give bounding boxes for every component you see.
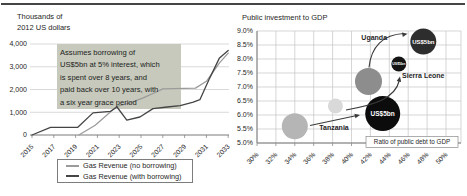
right-y-tick-label: 8.5% [237,41,253,48]
annotation-line: US$5bn at 5% interest, which [60,59,180,71]
right-x-tick-label: 36% [302,151,317,166]
right-x-tick-label: 48% [415,151,430,166]
right-x-tick-label: 32% [264,151,279,166]
left-y-tick-label: 0 [23,131,27,138]
right-y-tick-label: 6.0% [237,111,253,118]
bubble-chart: 30%32%34%36%38%40%42%44%46%48%50%9.0%8.5… [237,27,461,165]
right-y-tick-label: 5.0% [237,139,253,146]
left-y-tick-label: 3,000 [9,63,27,70]
left-x-tick-label: 2015 [19,143,35,159]
annotation-line: a six year grace period [60,97,180,109]
right-y-tick-label: 8.0% [237,55,253,62]
left-x-tick-label: 2023 [106,143,122,159]
left-x-tick-label: 2029 [172,143,188,159]
bubble-label-us5bn-sierra-leone: US$5bn [392,62,405,66]
right-x-tick-label: 42% [359,151,374,166]
right-x-tick-label: 40% [340,151,355,166]
annotation-line: paid back over 10 years, with [60,84,180,96]
bubble-label-us5bn-tanzania: US$5bn [371,110,395,118]
left-x-tick-label: 2033 [215,143,231,159]
right-y-tick-label: 7.5% [237,69,253,76]
bubble-label-us5bn-uganda: US$5bn [412,39,435,45]
right-x-tick-label: 30% [245,151,260,166]
arrow-uganda-to-us5bn-head [402,32,408,37]
left-x-tick-label: 2027 [150,143,166,159]
left-x-tick-label: 2025 [128,143,144,159]
arrow-tanzania-to-us5bn-head [354,113,360,119]
right-y-tick-label: 7.0% [237,83,253,90]
right-x-axis-label: Ratio of public debt to GDP [374,138,450,146]
right-y-tick-label: 6.5% [237,97,253,104]
left-y-tick-label: 1,000 [9,109,27,116]
right-x-tick-label: 34% [283,151,298,166]
left-x-tick-label: 2031 [193,143,209,159]
bubble-tanzania-current [282,113,308,139]
country-label-tanzania: Tanzania [319,124,349,131]
line-chart-legend: Gas Revenue (no borrowing) Gas Revenue (… [57,159,193,183]
bubble-uganda-current [355,68,382,95]
legend-row-with-borrowing: Gas Revenue (with borrowing) [66,172,192,183]
bubble-sierra-leone-current [328,99,343,114]
right-x-tick-label: 50% [434,151,449,166]
right-x-tick-label: 38% [321,151,336,166]
legend-label: Gas Revenue (no borrowing) [83,161,177,170]
annotation-line: is spent over 8 years, and [60,72,180,84]
legend-row-no-borrowing: Gas Revenue (no borrowing) [66,161,192,172]
figure: Thousands of 2012 US dollars Public inve… [0,0,467,196]
legend-label: Gas Revenue (with borrowing) [83,172,182,181]
country-label-uganda: Uganda [361,34,387,42]
annotation-text: Assumes borrowing of US$5bn at 5% intere… [60,47,180,109]
left-x-tick-label: 2019 [63,143,79,159]
left-y-tick-label: 4,000 [9,40,27,47]
left-x-tick-label: 2021 [84,143,100,159]
right-y-tick-label: 5.5% [237,125,253,132]
country-label-sierra-leone: Sierra Leone [402,72,445,79]
right-x-tick-label: 44% [377,151,392,166]
right-y-tick-label: 9.0% [237,27,253,34]
right-x-tick-label: 46% [396,151,411,166]
left-y-tick-label: 2,000 [9,86,27,93]
annotation-line: Assumes borrowing of [60,47,180,59]
legend-swatch-with-borrowing [66,175,79,177]
legend-swatch-no-borrowing [66,165,79,167]
left-x-tick-label: 2017 [41,143,57,159]
